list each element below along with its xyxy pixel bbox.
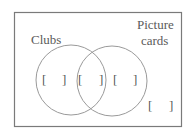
region-picture-cards-only[interactable]: [ ] (113, 72, 137, 87)
picture-cards-label-line1: Picture (137, 17, 174, 32)
close-bracket: ] (133, 72, 137, 87)
region-clubs-only[interactable]: [ ] (42, 72, 66, 87)
close-bracket: ] (62, 72, 66, 87)
clubs-label: Clubs (31, 32, 61, 47)
picture-cards-label-line2: cards (141, 33, 168, 48)
region-outside[interactable]: [ ] (148, 98, 173, 113)
region-intersection[interactable]: [ ] (78, 72, 103, 87)
close-bracket: ] (99, 72, 103, 87)
open-bracket: [ (148, 98, 152, 113)
open-bracket: [ (78, 72, 82, 87)
clubs-circle (36, 45, 106, 115)
close-bracket: ] (169, 98, 173, 113)
venn-diagram: Clubs Picture cards [ ] [ ] [ ] [ ] (0, 0, 190, 135)
open-bracket: [ (42, 72, 46, 87)
open-bracket: [ (113, 72, 117, 87)
